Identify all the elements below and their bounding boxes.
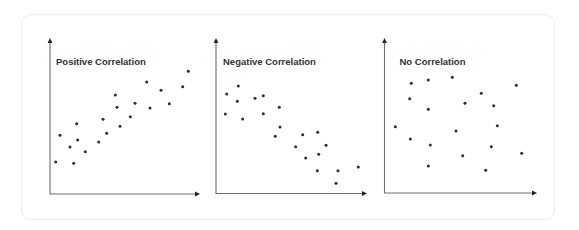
data-point	[427, 108, 430, 111]
chart-positive-correlation: Positive Correlation	[48, 38, 200, 196]
data-point	[484, 169, 487, 172]
data-point	[464, 102, 467, 105]
data-point	[225, 93, 228, 96]
data-point	[325, 144, 328, 147]
data-point	[134, 102, 137, 105]
data-point	[301, 133, 304, 136]
data-point	[317, 153, 320, 156]
data-point	[59, 134, 62, 137]
data-point	[427, 79, 430, 82]
data-point	[54, 161, 57, 164]
data-points	[224, 85, 360, 185]
chart-title: Positive Correlation	[56, 56, 146, 67]
data-point	[149, 107, 152, 110]
data-point	[492, 104, 495, 107]
data-point	[241, 118, 244, 121]
data-point	[520, 152, 523, 155]
data-point	[451, 76, 454, 79]
y-axis-arrow-icon	[382, 38, 387, 43]
data-points	[394, 76, 523, 172]
data-point	[102, 118, 105, 121]
y-axis-arrow-icon	[48, 38, 53, 43]
data-point	[237, 85, 240, 88]
x-axis-arrow-icon	[532, 191, 537, 196]
data-point	[129, 115, 132, 118]
chart-negative-correlation: Negative Correlation	[214, 38, 367, 196]
data-point	[515, 84, 518, 87]
data-point	[75, 122, 78, 125]
data-point	[394, 125, 397, 128]
data-point	[279, 126, 282, 129]
data-point	[76, 139, 79, 142]
data-point	[69, 146, 72, 149]
data-point	[294, 145, 297, 148]
data-point	[409, 138, 412, 141]
data-point	[410, 82, 413, 85]
data-point	[145, 81, 148, 84]
data-points	[54, 70, 190, 165]
scatter-plots: Positive Correlation Negative Correlatio…	[0, 0, 579, 230]
chart-title: No Correlation	[400, 56, 466, 67]
data-point	[224, 113, 227, 116]
data-point	[236, 100, 239, 103]
data-point	[316, 131, 319, 134]
data-point	[262, 112, 265, 115]
data-point	[168, 102, 171, 105]
data-point	[316, 169, 319, 172]
data-point	[119, 125, 122, 128]
data-point	[496, 124, 499, 127]
data-point	[455, 130, 458, 133]
data-point	[429, 144, 432, 147]
x-axis-arrow-icon	[362, 191, 367, 196]
data-point	[408, 97, 411, 100]
y-axis-arrow-icon	[214, 38, 219, 43]
x-axis-arrow-icon	[195, 192, 200, 197]
data-point	[160, 89, 163, 92]
data-point	[480, 92, 483, 95]
data-point	[116, 106, 119, 109]
data-point	[84, 150, 87, 153]
data-point	[335, 182, 338, 185]
data-point	[97, 141, 100, 144]
data-point	[278, 106, 281, 109]
data-point	[105, 132, 108, 135]
chart-no-correlation: No Correlation	[382, 38, 537, 195]
data-point	[181, 85, 184, 88]
data-point	[304, 157, 307, 160]
data-point	[337, 169, 340, 172]
data-point	[427, 165, 430, 168]
data-point	[262, 94, 265, 97]
data-point	[114, 94, 117, 97]
data-point	[187, 70, 190, 73]
data-point	[72, 162, 75, 165]
chart-title: Negative Correlation	[223, 56, 316, 67]
data-point	[490, 145, 493, 148]
data-point	[254, 97, 257, 100]
data-point	[357, 166, 360, 169]
data-point	[274, 135, 277, 138]
data-point	[461, 154, 464, 157]
